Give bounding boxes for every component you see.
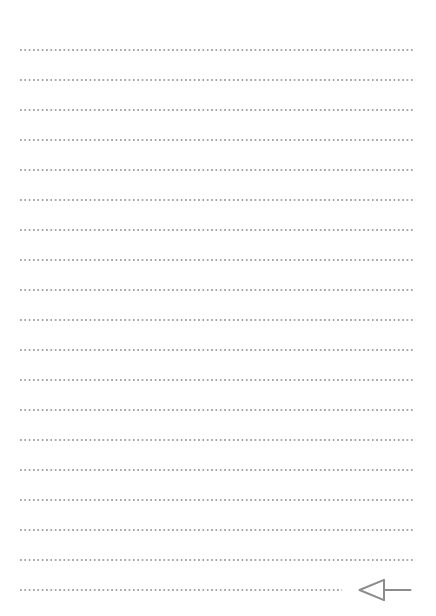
ruled-line: [20, 349, 415, 351]
ruled-line: [20, 109, 415, 111]
ruled-line: [20, 589, 342, 591]
ruled-line: [20, 319, 415, 321]
ruled-line: [20, 499, 415, 501]
ruled-line: [20, 49, 415, 51]
ruled-line: [20, 439, 415, 441]
return-arrow-head-icon: [360, 580, 385, 600]
ruled-line: [20, 469, 415, 471]
ruled-line: [20, 379, 415, 381]
ruled-page: [0, 0, 436, 616]
ruled-line: [20, 139, 415, 141]
ruled-line: [20, 409, 415, 411]
ruled-line: [20, 529, 415, 531]
return-arrow-glyph: [358, 578, 412, 602]
return-arrow-icon: [358, 578, 412, 602]
ruled-line: [20, 229, 415, 231]
ruled-line: [20, 79, 415, 81]
ruled-line: [20, 559, 415, 561]
ruled-line: [20, 259, 415, 261]
ruled-line: [20, 169, 415, 171]
ruled-line: [20, 199, 415, 201]
ruled-line: [20, 289, 415, 291]
